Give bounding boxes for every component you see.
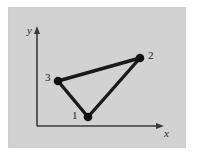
x-axis-arrowhead-icon xyxy=(156,123,164,129)
node-label-2: 2 xyxy=(148,50,154,61)
node-label-3: 3 xyxy=(45,72,51,83)
figure-root: y x 1 2 3 xyxy=(0,0,198,156)
node-label-1: 1 xyxy=(72,110,78,121)
y-axis-arrowhead-icon xyxy=(34,26,40,34)
node-marker-2 xyxy=(136,54,145,63)
x-axis-label: x xyxy=(164,128,169,139)
node-marker-3 xyxy=(54,77,63,86)
node-marker-1 xyxy=(84,113,93,122)
y-axis-label: y xyxy=(27,25,32,36)
